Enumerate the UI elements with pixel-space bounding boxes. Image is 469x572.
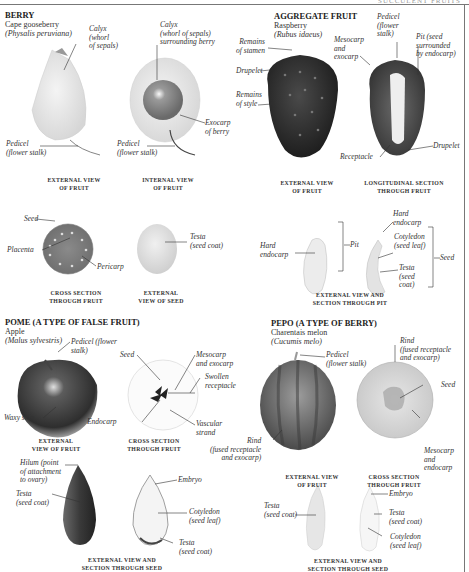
berry-common-name: Cape gooseberry: [5, 20, 59, 29]
label-testa-raspberry: Testa (seed coat): [399, 264, 415, 290]
apple-external: [18, 360, 98, 438]
berry-latin-name: (Physalis peruviana): [5, 29, 72, 38]
label-calyx-external: Calyx (whorl of sepals): [89, 25, 118, 51]
label-swollen-receptacle: Swollen receptacle: [205, 373, 236, 390]
label-hilum: Hilum (point of attachment to ovary): [20, 459, 61, 485]
pepo-latin-name: (Cucumis melo): [271, 337, 322, 346]
label-pedicel-melon: Pedicel (flower stalk): [326, 351, 366, 368]
label-placenta: Placenta: [7, 246, 34, 255]
label-seed: Seed: [24, 215, 38, 224]
gooseberry-external: [32, 48, 100, 155]
label-cotyledon-apple: Cotyledon (seed leaf): [189, 508, 220, 525]
pome-heading: POME (A TYPE OF FALSE FRUIT): [5, 317, 140, 327]
caption-pome-external: EXTERNAL VIEW OF FRUIT: [32, 437, 81, 453]
caption-pepo-external: EXTERNAL VIEW OF FRUIT: [285, 473, 338, 489]
label-endocarp: Endocarp: [87, 418, 117, 427]
pepo-heading: PEPO (A TYPE OF BERRY): [271, 318, 377, 328]
label-receptacle: Receptacle: [340, 153, 373, 162]
berry-heading: BERRY: [5, 10, 34, 20]
aggregate-common-name: Raspberry: [274, 21, 307, 30]
melon-cross-section: [357, 362, 433, 438]
aggregate-heading: AGGREGATE FRUIT: [274, 11, 357, 21]
apple-seed-external: [63, 465, 96, 545]
label-seed-bracket: Seed: [440, 254, 454, 263]
caption-pome-cross: CROSS SECTION THROUGH FRUIT: [127, 437, 181, 453]
caption-aggregate-external: EXTERNAL VIEW OF FRUIT: [280, 179, 333, 195]
label-pericarp: Pericarp: [97, 263, 124, 272]
label-seed-apple: Seed: [120, 351, 134, 360]
label-remains-style: Remains of style: [236, 91, 262, 108]
label-pedicel-apple: Pedicel (flower stalk): [71, 338, 117, 355]
label-drupelet-left: Drupelet: [236, 67, 263, 76]
melon-seed-external: [306, 485, 325, 550]
caption-berry-external: EXTERNAL VIEW OF FRUIT: [47, 176, 100, 192]
caption-pepo-cross: CROSS SECTION THROUGH FRUIT: [367, 473, 421, 489]
label-pedicel-external: Pedicel (flower stalk): [6, 140, 46, 157]
raspberry-external: [267, 55, 338, 158]
label-pedicel-internal: Pedicel (flower stalk): [117, 140, 157, 157]
label-drupelet-right: Drupelet: [433, 142, 460, 151]
label-cotyledon-melon: Cotyledon (seed leaf): [390, 533, 421, 550]
melon-seed-section: [360, 487, 380, 551]
label-cotyledon-raspberry: Cotyledon (seed leaf): [394, 233, 425, 250]
apple-seed-section: [133, 475, 168, 545]
label-seed-melon: Seed: [441, 381, 455, 390]
apple-cross-section: [128, 360, 198, 430]
pome-latin-name: (Malus sylvestris): [5, 336, 62, 345]
label-testa-apple-right: Testa (seed coat): [179, 539, 212, 556]
label-hard-endocarp-right: Hard endocarp: [393, 210, 421, 227]
caption-aggregate-pit: EXTERNAL VIEW AND SECTION THROUGH PIT: [313, 291, 388, 307]
label-mesocarp-melon: Mesocarp and endocarp: [424, 447, 454, 473]
label-exocarp: Exocarp of berry: [205, 119, 230, 136]
pepo-common-name: Charentais melon: [271, 328, 327, 337]
label-calyx-internal: Calyx (whorl of sepals) surrounding berr…: [160, 21, 215, 47]
raspberry-section: [369, 60, 425, 156]
label-testa-melon-right: Testa (seed coat): [389, 509, 422, 526]
label-testa-apple-left: Testa (seed coat): [16, 490, 49, 507]
label-testa-melon-left: Testa (seed coat): [264, 502, 297, 519]
caption-aggregate-longitudinal: LONGITUDINAL SECTION THROUGH FRUIT: [364, 179, 443, 195]
caption-berry-seed: EXTERNAL VIEW OF SEED: [138, 289, 183, 305]
gooseberry-seed: [137, 224, 177, 274]
label-pit: Pit (seed surrounded by endocarp): [416, 33, 456, 59]
label-remains-stamen: Remains of stamen: [236, 38, 265, 55]
label-testa-berry: Testa (seed coat): [190, 233, 223, 250]
label-mesocarp-exocarp: Mesocarp and exocarp: [334, 36, 364, 62]
label-pit-bracket: Pit: [350, 241, 359, 250]
raspberry-pit-section: [366, 240, 385, 295]
label-vascular-strand: Vascular strand: [196, 420, 222, 437]
pome-common-name: Apple: [5, 327, 25, 336]
label-embryo-apple: Embryo: [178, 476, 202, 485]
caption-pepo-seed: EXTERNAL VIEW AND SECTION THROUGH SEED: [308, 557, 388, 572]
caption-pome-seed: EXTERNAL VIEW AND SECTION THROUGH SEED: [82, 556, 162, 572]
caption-berry-cross: CROSS SECTION THROUGH FRUIT: [49, 289, 103, 305]
label-rind-left: Rind (fused receptacle and exocarp): [210, 437, 261, 463]
label-mesocarp-apple: Mesocarp and exocarp: [196, 351, 233, 368]
label-embryo-melon: Embryo: [389, 490, 413, 499]
aggregate-latin-name: (Rubus idaeus): [274, 30, 322, 39]
melon-external: [260, 352, 336, 450]
label-rind-top: Rind (fused receptacle and exocarp): [400, 337, 451, 363]
label-waxy-skin: Waxy skin: [4, 414, 34, 423]
label-pedicel-raspberry: Pedicel (flower stalk): [377, 13, 400, 39]
raspberry-pit-external: [304, 238, 327, 294]
caption-berry-internal: INTERNAL VIEW OF FRUIT: [142, 176, 194, 192]
label-hard-endocarp-left: Hard endocarp: [260, 242, 288, 259]
